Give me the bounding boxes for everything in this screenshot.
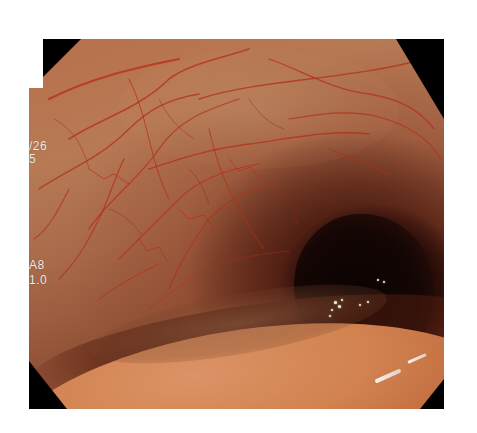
light-reflection bbox=[359, 304, 361, 306]
overlay-ratio-value: 1.0 bbox=[29, 274, 47, 287]
light-reflection bbox=[367, 301, 369, 303]
light-reflection bbox=[329, 315, 331, 317]
light-reflection bbox=[334, 301, 337, 304]
vascular-pattern bbox=[29, 39, 444, 409]
light-reflection bbox=[377, 279, 379, 281]
light-reflection bbox=[331, 309, 333, 311]
overlay-line2: 5 bbox=[29, 153, 36, 166]
endoscopy-image: /26 5 A8 1.0 bbox=[29, 39, 444, 409]
overlay-mode-label: A8 bbox=[29, 259, 45, 272]
light-reflection bbox=[338, 305, 341, 308]
light-reflection bbox=[383, 281, 385, 283]
light-reflection bbox=[341, 299, 343, 301]
